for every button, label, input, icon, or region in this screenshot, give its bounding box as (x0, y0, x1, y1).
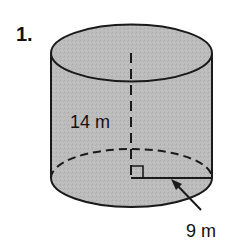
problem-figure: 1. 14 m 9 m (0, 0, 236, 246)
radius-label: 9 m (186, 222, 216, 240)
cylinder-diagram (0, 0, 236, 246)
problem-number: 1. (16, 24, 33, 44)
height-label: 14 m (70, 113, 110, 131)
